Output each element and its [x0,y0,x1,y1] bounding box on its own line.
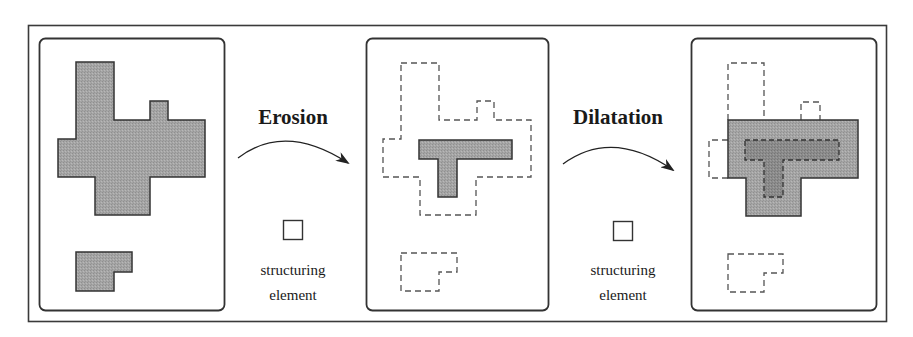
structuring-label-line2: element [568,283,678,308]
dilatation-structuring-label: structuring element [568,258,678,308]
panel-original [40,39,225,311]
dilatation-operator [563,147,673,240]
panel-dilated [692,39,877,311]
structuring-label-line1: structuring [243,258,343,283]
erosion-label: Erosion [243,105,343,130]
diagram-canvas [0,0,913,337]
structuring-label-line2: element [243,283,343,308]
structuring-element-icon [614,222,633,241]
erosion-operator [238,141,348,239]
erosion-structuring-label: structuring element [243,258,343,308]
structuring-element-icon [284,221,303,240]
panel-eroded [367,39,549,311]
dilatation-arrow-icon [563,147,673,170]
structuring-label-line1: structuring [568,258,678,283]
erosion-arrow-icon [238,141,348,163]
dilatation-label: Dilatation [558,105,678,130]
